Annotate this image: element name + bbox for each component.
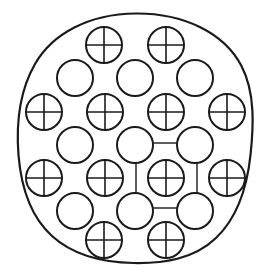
plain-atom	[177, 60, 213, 96]
plain-atom	[117, 193, 153, 229]
atom-circle	[117, 60, 153, 96]
crossed-atom	[87, 160, 123, 196]
plain-atom	[117, 60, 153, 96]
crossed-atom	[209, 94, 245, 130]
atom-circle	[177, 193, 213, 229]
plain-atom	[57, 60, 93, 96]
atom-circle	[57, 127, 93, 163]
atom-circle	[177, 127, 213, 163]
plain-atom	[57, 193, 93, 229]
atom-circle	[177, 60, 213, 96]
plain-atom	[177, 193, 213, 229]
atom-circle	[57, 193, 93, 229]
crossed-atom	[148, 27, 184, 63]
crossed-atom	[148, 94, 184, 130]
crossed-atom	[87, 94, 123, 130]
crossed-atom	[86, 222, 122, 258]
atom-circle	[57, 60, 93, 96]
lattice-diagram-svg	[0, 0, 270, 279]
crossed-atom	[26, 94, 62, 130]
crossed-atom	[148, 160, 184, 196]
crossed-atom	[26, 160, 62, 196]
crossed-atom	[86, 27, 122, 63]
crossed-atom	[209, 160, 245, 196]
lattice-figure	[0, 0, 270, 279]
crossed-atom	[148, 222, 184, 258]
atom-circle	[117, 193, 153, 229]
plain-atom	[57, 127, 93, 163]
plain-atom	[117, 127, 153, 163]
plain-atom	[177, 127, 213, 163]
atom-circle	[117, 127, 153, 163]
